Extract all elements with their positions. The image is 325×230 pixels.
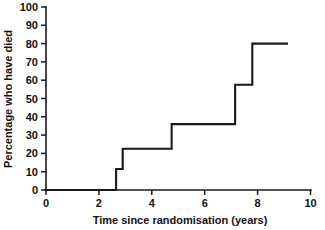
x-tick-label-10: 10 [304,197,316,209]
survival-step-curve [46,44,288,190]
y-tick-label-60: 60 [26,74,38,86]
chart-canvas: 0 10 20 30 40 50 60 70 80 90 100 Percent… [0,0,325,230]
y-tick-label-20: 20 [26,147,38,159]
y-tick-label-70: 70 [26,56,38,68]
x-tick-label-2: 2 [96,197,102,209]
y-tick-label-30: 30 [26,129,38,141]
y-axis-group: 0 10 20 30 40 50 60 70 80 90 100 Percent… [2,1,46,196]
y-tick-label-10: 10 [26,166,38,178]
x-tick-label-6: 6 [202,197,208,209]
x-tick-label-8: 8 [255,197,261,209]
x-tick-label-4: 4 [149,197,156,209]
y-tick-label-40: 40 [26,111,38,123]
x-axis-title: Time since randomisation (years) [93,214,268,226]
y-tick-label-0: 0 [32,184,38,196]
x-tick-label-0: 0 [43,197,49,209]
y-tick-label-100: 100 [20,1,38,13]
y-tick-label-80: 80 [26,38,38,50]
x-axis-group: 0 2 4 6 8 10 Time since randomisation (y… [43,190,317,226]
kaplan-meier-chart: 0 10 20 30 40 50 60 70 80 90 100 Percent… [0,0,325,230]
y-tick-label-90: 90 [26,19,38,31]
y-tick-label-50: 50 [26,93,38,105]
y-axis-title: Percentage who have died [2,30,14,168]
